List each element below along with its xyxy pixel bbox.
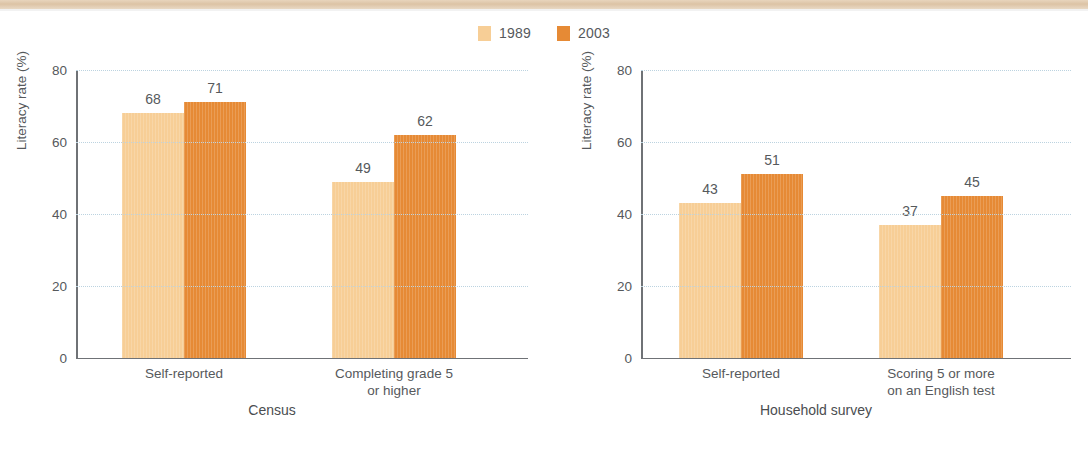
- bottom-edge: [0, 443, 1088, 450]
- bar-value-label: 45: [941, 174, 1003, 190]
- bar-1989: 49: [332, 182, 394, 358]
- bar-2003: 45: [941, 196, 1003, 358]
- gridline: [76, 286, 528, 288]
- bar-value-label: 51: [741, 152, 803, 168]
- bar-value-label: 49: [332, 160, 394, 176]
- y-axis-tick-label: 60: [617, 135, 632, 150]
- bar-2003: 51: [741, 174, 803, 358]
- gridline: [641, 286, 1071, 288]
- y-axis-tick-label: 80: [617, 63, 632, 78]
- y-axis-tick-label: 80: [52, 63, 67, 78]
- bar-value-label: 37: [879, 203, 941, 219]
- y-axis-label-left: Literacy rate (%): [14, 51, 29, 150]
- bar-2003: 62: [394, 135, 456, 358]
- gridline: [76, 142, 528, 144]
- y-axis-tick-label: 0: [59, 351, 67, 366]
- bar-1989: 68: [122, 113, 184, 358]
- gridline: [641, 214, 1071, 216]
- panel-census: Literacy rate (%) 68714962 020406080Self…: [0, 0, 544, 450]
- x-axis-category-label: Scoring 5 or more on an English test: [887, 366, 994, 400]
- gridline: [76, 70, 528, 72]
- bar-2003: 71: [184, 102, 246, 358]
- y-axis-tick-label: 0: [624, 351, 632, 366]
- panel-household-survey: Literacy rate (%) 43513745 020406080Self…: [544, 0, 1088, 450]
- x-axis-category-label: Self-reported: [145, 366, 223, 383]
- gridline: [76, 214, 528, 216]
- y-axis-label-right: Literacy rate (%): [579, 51, 594, 150]
- plot-area-census: 68714962 020406080Self-reportedCompletin…: [76, 70, 528, 358]
- y-axis-tick-label: 20: [52, 279, 67, 294]
- bar-value-label: 68: [122, 91, 184, 107]
- bar-value-label: 71: [184, 80, 246, 96]
- plot-area-household-survey: 43513745 020406080Self-reportedScoring 5…: [641, 70, 1071, 358]
- bar-value-label: 62: [394, 113, 456, 129]
- bar-1989: 37: [879, 225, 941, 358]
- chart-panels: Literacy rate (%) 68714962 020406080Self…: [0, 0, 1088, 450]
- panel-title-census: Census: [0, 402, 544, 418]
- bar-value-label: 43: [679, 181, 741, 197]
- gridline: [641, 70, 1071, 72]
- bar-1989: 43: [679, 203, 741, 358]
- panel-title-household-survey: Household survey: [544, 402, 1088, 418]
- x-axis-category-label: Self-reported: [702, 366, 780, 383]
- y-axis-tick-label: 40: [52, 207, 67, 222]
- gridline: [641, 142, 1071, 144]
- y-axis-tick-label: 20: [617, 279, 632, 294]
- x-axis-category-label: Completing grade 5 or higher: [335, 366, 453, 400]
- y-axis-tick-label: 40: [617, 207, 632, 222]
- y-axis-tick-label: 60: [52, 135, 67, 150]
